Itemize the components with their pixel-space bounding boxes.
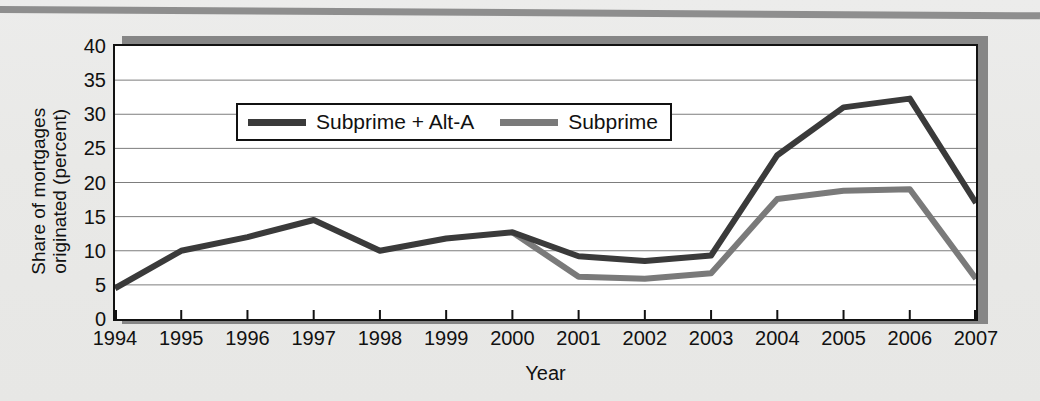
x-axis-tick-marks — [116, 310, 975, 319]
y-axis-tick-label: 5 — [66, 275, 106, 295]
legend-label-subprime: Subprime — [568, 110, 658, 134]
y-axis-tick-label: 15 — [66, 207, 106, 227]
legend-swatch-subprime — [500, 119, 558, 126]
y-axis-tick-label: 30 — [66, 104, 106, 124]
y-axis-tick-label: 40 — [66, 36, 106, 56]
x-axis-tick-labels: 1994199519961997199819992000200120022003… — [0, 328, 1040, 358]
x-axis-tick-label: 2007 — [936, 328, 1016, 348]
legend-entry-subprime-alt-a: Subprime + Alt-A — [248, 110, 474, 134]
y-axis-title-line1: Share of mortgages — [28, 46, 49, 336]
legend-label-subprime-alt-a: Subprime + Alt-A — [316, 110, 474, 134]
x-axis-title: Year — [113, 362, 978, 385]
legend-entry-subprime: Subprime — [500, 110, 658, 134]
chart-figure: Share of mortgages originated (percent) … — [0, 0, 1040, 401]
y-axis-tick-label: 20 — [66, 173, 106, 193]
chart-legend: Subprime + Alt-A Subprime — [236, 103, 672, 141]
plot-area: Subprime + Alt-A Subprime — [113, 44, 978, 321]
y-axis-tick-label: 10 — [66, 241, 106, 261]
y-axis-tick-label: 25 — [66, 138, 106, 158]
y-axis-tick-label: 35 — [66, 70, 106, 90]
y-axis-tick-label: 0 — [66, 309, 106, 329]
plot-canvas — [115, 46, 976, 319]
legend-swatch-subprime-alt-a — [248, 119, 306, 126]
